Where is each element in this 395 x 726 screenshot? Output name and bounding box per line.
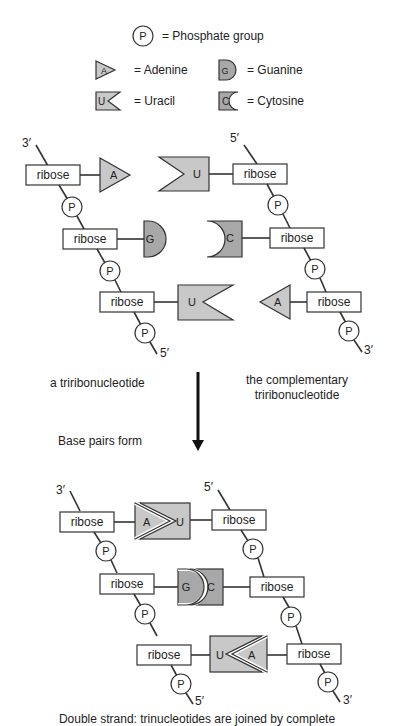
base-label-a: A — [143, 516, 151, 528]
rna-base-pairing-diagram: P = Phosphate group A = Adenine G = Guan… — [0, 0, 395, 726]
left-strand-caption: a triribonucleotide — [50, 376, 145, 390]
base-label-u: U — [188, 296, 196, 308]
backbone-segment — [241, 530, 248, 541]
adenine-legend-label: = Adenine — [134, 63, 188, 77]
phosphate-label: P — [141, 327, 148, 339]
backbone-segment — [333, 691, 340, 702]
backbone-segment — [111, 560, 117, 573]
down-arrow-icon — [192, 372, 204, 451]
end-label-5-prime: 5′ — [195, 694, 205, 708]
ribose-label: ribose — [37, 168, 70, 182]
backbone-segment — [94, 532, 101, 543]
ribose-label: ribose — [298, 647, 331, 661]
base-pair-a-u: A U — [114, 503, 212, 539]
guanine-legend-label: = Guanine — [247, 63, 303, 77]
base-pair-g-c: G C — [154, 569, 250, 605]
phosphate-label: P — [287, 611, 294, 623]
backbone-segment — [77, 216, 84, 229]
right-strand-caption-line1: the complementary — [246, 373, 348, 387]
backbone-segment — [304, 248, 311, 261]
backbone-segment — [59, 185, 68, 200]
backbone-segment — [150, 342, 157, 354]
legend-uracil: U = Uracil — [96, 92, 175, 110]
uracil-base — [159, 157, 209, 191]
bottom-right-strand: 5′ ribose P ribose P ribose P 3′ — [204, 480, 353, 707]
arrow-label: Base pairs form — [58, 434, 142, 448]
phosphate-label: P — [324, 676, 331, 688]
backbone-segment — [115, 280, 121, 292]
end-label-3-prime: 3′ — [364, 343, 374, 357]
phosphate-label: P — [177, 678, 184, 690]
ribose-label: ribose — [244, 167, 277, 181]
backbone-segment — [296, 626, 302, 644]
uracil-base — [178, 285, 233, 320]
ribose-label: ribose — [71, 515, 104, 529]
base-label-c: C — [207, 581, 215, 593]
legend-guanine: G = Guanine — [219, 60, 303, 80]
cytosine-base — [207, 221, 242, 257]
base-label-a: A — [110, 169, 118, 181]
backbone-segment — [171, 665, 177, 676]
phosphate-label: P — [249, 543, 256, 555]
end-label-5-prime: 5′ — [230, 131, 240, 145]
ribose-label: ribose — [148, 648, 181, 662]
backbone-segment — [267, 184, 274, 197]
backbone-segment — [354, 340, 362, 352]
ribose-label: ribose — [223, 513, 256, 527]
cytosine-legend-label: = Cytosine — [247, 94, 304, 108]
guanine-symbol: G — [221, 66, 228, 76]
base-label-a: A — [248, 649, 256, 661]
ribose-label: ribose — [111, 577, 144, 591]
end-label-5-prime: 5′ — [204, 480, 214, 494]
phosphate-label: P — [102, 545, 109, 557]
base-label-u: U — [216, 649, 224, 661]
backbone-segment — [97, 249, 105, 263]
cytosine-symbol: C — [222, 96, 229, 107]
bottom-caption: Double strand: trinucleotides are joined… — [59, 712, 335, 726]
legend: P = Phosphate group A = Adenine G = Guan… — [96, 26, 304, 110]
phosphate-label: P — [106, 265, 113, 277]
backbone-segment — [320, 278, 326, 292]
ribose-label: ribose — [318, 295, 351, 309]
end-label-5-prime: 5′ — [160, 346, 170, 360]
backbone-segment — [283, 214, 290, 228]
base-pair-u-a: U A — [191, 636, 287, 672]
ribose-label: ribose — [74, 232, 107, 246]
backbone-segment — [134, 312, 141, 325]
backbone-segment — [186, 693, 193, 704]
backbone-segment — [134, 594, 141, 606]
legend-cytosine: C = Cytosine — [219, 92, 304, 110]
adenine-symbol: A — [101, 66, 107, 76]
backbone-segment — [218, 490, 230, 510]
base-label-g: G — [146, 233, 155, 245]
end-label-3-prime: 3′ — [22, 136, 32, 150]
base-label-g: G — [182, 581, 191, 593]
backbone-segment — [150, 623, 157, 636]
base-label-c: C — [226, 232, 234, 244]
right-strand-caption-line2: triribonucleotide — [255, 388, 340, 402]
phosphate-label: P — [345, 325, 352, 337]
base-label-u: U — [176, 516, 184, 528]
base-label-a: A — [274, 296, 282, 308]
uracil-legend-label: = Uracil — [134, 94, 175, 108]
phosphate-legend-label: = Phosphate group — [162, 29, 264, 43]
backbone-segment — [70, 491, 80, 511]
end-label-3-prime: 3′ — [343, 693, 353, 707]
phosphate-label: P — [141, 608, 148, 620]
backbone-segment — [36, 145, 48, 166]
phosphate-label: P — [311, 263, 318, 275]
ribose-label: ribose — [111, 295, 144, 309]
end-label-3-prime: 3′ — [56, 483, 66, 497]
base-label-u: U — [193, 168, 201, 180]
legend-phosphate: P = Phosphate group — [133, 26, 264, 46]
backbone-segment — [244, 145, 257, 164]
phosphate-label: P — [68, 201, 75, 213]
backbone-segment — [258, 558, 264, 577]
top-right-strand: 5′ ribose U P ribose C P ribose A P 3′ — [159, 131, 374, 357]
legend-adenine: A = Adenine — [96, 61, 188, 79]
ribose-label: ribose — [281, 231, 314, 245]
phosphate-label: P — [274, 199, 281, 211]
uracil-symbol: U — [98, 96, 105, 107]
ribose-label: ribose — [261, 580, 294, 594]
phosphate-symbol: P — [139, 30, 146, 42]
